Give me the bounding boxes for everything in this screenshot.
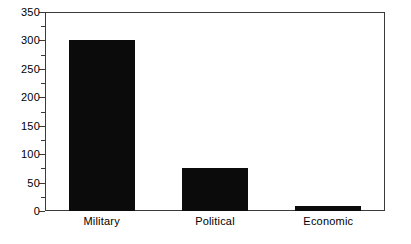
y-axis-labels: 050100150200250300350 xyxy=(0,0,40,244)
bar-chart: 050100150200250300350 MilitaryPoliticalE… xyxy=(0,0,411,244)
y-axis-tick-label: 50 xyxy=(0,177,40,188)
y-axis-tick-label: 350 xyxy=(0,7,40,18)
plot-area xyxy=(45,12,385,211)
y-axis-tick-label: 300 xyxy=(0,35,40,46)
x-axis-tick-label: Political xyxy=(158,215,271,228)
x-axis-tick-label: Economic xyxy=(272,215,385,228)
y-axis-tick-label: 200 xyxy=(0,92,40,103)
y-axis-tick-label: 0 xyxy=(0,206,40,217)
y-axis-tick-label: 250 xyxy=(0,63,40,74)
x-axis-tick-label: Military xyxy=(45,215,158,228)
y-axis-tick-label: 100 xyxy=(0,149,40,160)
y-axis-tick-label: 150 xyxy=(0,120,40,131)
